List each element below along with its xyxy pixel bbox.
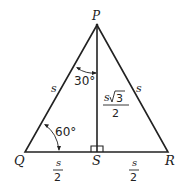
label-base-left-numerator: s	[56, 157, 61, 168]
label-angle-60: 60°	[55, 125, 76, 139]
label-s: S	[92, 153, 101, 168]
angle-60-arrow-bottom	[57, 146, 61, 151]
label-altitude-root: 3	[116, 92, 123, 105]
label-base-right-denominator: 2	[130, 171, 137, 184]
label-altitude-denominator: 2	[112, 107, 119, 120]
label-altitude-s: s	[104, 91, 110, 104]
label-p: P	[91, 9, 101, 23]
label-side-right: s	[136, 82, 142, 95]
label-side-left: s	[51, 82, 57, 95]
label-r: R	[164, 153, 175, 168]
label-angle-30: 30°	[74, 74, 95, 88]
label-q: Q	[14, 153, 25, 168]
triangle-diagram: P Q S R s s 30° 60° s 3 2 s 2 s 2	[0, 0, 185, 189]
vertex-p-dot	[96, 24, 99, 27]
label-base-right-numerator: s	[132, 157, 137, 168]
label-base-left-denominator: 2	[54, 171, 61, 184]
